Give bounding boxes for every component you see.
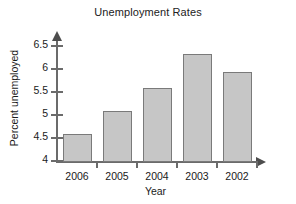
x-axis-tick [176,161,178,168]
chart-title: Unemployment Rates [0,6,296,18]
x-axis-tick-label-2002: 2002 [217,170,257,182]
bar-2003 [183,54,212,162]
y-axis-tick-label: 4.5 [33,130,48,142]
x-axis-tick-label-2004: 2004 [137,170,177,182]
x-axis-tick-label-2005: 2005 [97,170,137,182]
bar-2005 [103,111,132,162]
y-axis-tick-label: 6.5 [33,38,48,50]
x-axis-tick-label-2006: 2006 [57,170,97,182]
x-axis-tick [216,161,218,168]
y-axis-tick-label: 6 [42,61,48,73]
scan-edge-artifact [0,200,296,204]
bar-2002 [223,72,252,162]
plot-area [57,40,262,162]
x-axis-tick-label-2003: 2003 [177,170,217,182]
y-axis-tick-label: 5.5 [33,84,48,96]
y-axis-tick-label: 5 [42,107,48,119]
bar-2006 [63,134,92,162]
bar-2004 [143,88,172,162]
x-axis-tick [96,161,98,168]
y-axis-title: Percent unemployed [8,33,20,163]
x-axis-tick [256,161,258,168]
y-axis-tick-label: 4 [42,153,48,165]
x-axis-tick [136,161,138,168]
x-axis-title: Year [48,185,263,197]
unemployment-rates-bar-chart: Unemployment Rates Percent unemployed 44… [0,0,296,204]
